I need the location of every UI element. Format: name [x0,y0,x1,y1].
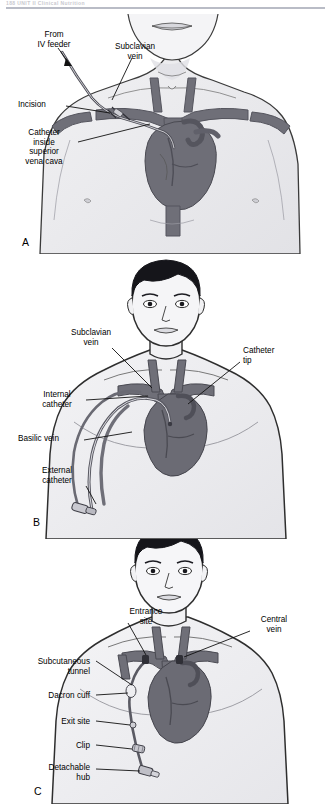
label-catheter-tip: Catheter tip [243,346,293,365]
running-head-rule [6,7,325,9]
figure-page: 188 UNIT II Clinical Nutrition [0,0,331,804]
label-subclavian-vein: Subclavian vein [62,328,120,347]
label-subcutaneous-tunnel: Subcutaneous tunnel [6,657,90,676]
label-clip: Clip [6,741,90,751]
label-detachable-hub: Detachable hub [6,763,90,782]
label-internal-catheter: Internal catheter [30,390,84,409]
running-head-text: 188 UNIT II Clinical Nutrition [6,0,85,6]
label-external-catheter: External catheter [30,466,84,485]
figure-panel-b: Subclavian vein Catheter tip Internal ca… [0,254,331,539]
label-central-vein: Central vein [248,615,300,634]
label-entrance-site: Entrance site [118,607,174,626]
label-dacron-cuff: Dacron cuff [6,691,90,701]
label-incision: Incision [18,100,64,110]
label-basilic-vein: Basilic vein [18,434,82,444]
running-head: 188 UNIT II Clinical Nutrition [0,0,331,12]
panel-key-a: A [22,236,29,248]
panel-key-b: B [33,516,40,528]
label-exit-site: Exit site [6,717,90,727]
figure-panel-a: From IV feeder Subclavian vein Incision … [0,14,331,254]
label-subclavian-vein: Subclavian vein [104,42,166,61]
panel-key-c: C [34,785,42,797]
figure-panel-c: Entrance site Central vein Subcutaneous … [0,539,331,804]
label-from-iv-feeder: From IV feeder [26,30,82,49]
label-catheter-inside-superior-vena-cava: Catheter inside superior vena cava [14,128,74,166]
